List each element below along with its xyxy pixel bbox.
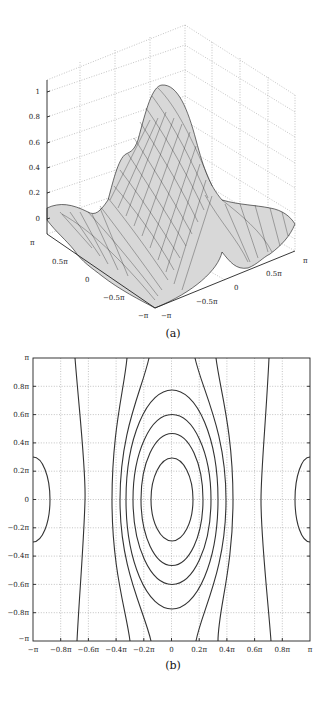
- x-tick: −π: [28, 646, 39, 654]
- y-tick: 0.4π: [13, 439, 29, 447]
- x-tick: −0.8π: [50, 646, 72, 654]
- y-tick: π: [24, 354, 29, 362]
- contour-grid: [33, 358, 310, 641]
- surface-mesh: [47, 85, 295, 308]
- floor-tick: 0: [234, 284, 238, 292]
- z-tick: 0: [36, 215, 40, 223]
- z-tick: 0.8: [29, 113, 40, 121]
- x-axis-tick-labels: −π −0.8π −0.6π −0.4π −0.2π 0 0.2π 0.4π 0…: [28, 646, 313, 654]
- y-tick: −π: [19, 635, 30, 643]
- closed-contours: [126, 390, 218, 609]
- x-tick: 0.4π: [219, 646, 235, 654]
- x-tick: 0.2π: [191, 646, 207, 654]
- y-tick: 0: [25, 496, 29, 504]
- floor-tick: 0: [85, 276, 89, 284]
- y-tick: 0.8π: [13, 383, 29, 391]
- x-tick: π: [308, 646, 313, 654]
- x-tick: −0.6π: [78, 646, 100, 654]
- floor-tick: −π: [138, 312, 149, 320]
- panel-a-caption: (a): [165, 327, 180, 340]
- y-tick: 0.2π: [13, 467, 29, 475]
- open-contours: [75, 358, 271, 641]
- floor-tick: 0.5π: [266, 270, 282, 278]
- z-tick: 1: [36, 88, 40, 96]
- y-tick: −0.8π: [7, 609, 29, 617]
- edge-contours: [33, 457, 310, 542]
- y-tick: −0.4π: [7, 552, 29, 560]
- z-axis-tick-labels: 1 0.8 0.6 0.4 0.2 0: [29, 88, 41, 223]
- y-axis-tick-labels: π 0.8π 0.6π 0.4π 0.2π 0 −0.2π −0.4π −0.6…: [7, 354, 29, 643]
- x-tick: −0.4π: [105, 646, 127, 654]
- panel-b-caption: (b): [165, 659, 181, 672]
- x-tick: 0.8π: [274, 646, 290, 654]
- y-tick: −0.2π: [7, 524, 29, 532]
- z-tick: 0.2: [29, 189, 40, 197]
- surface-plot-panel-a: 1 0.8 0.6 0.4 0.2 0 π 0.5π 0 −0.5π −π −π…: [0, 0, 331, 345]
- floor-tick: π: [303, 257, 308, 265]
- contour-ticks: [33, 386, 310, 641]
- floor-tick: −π: [161, 312, 172, 320]
- y-tick: 0.6π: [13, 411, 29, 419]
- z-tick: 0.4: [29, 164, 41, 172]
- floor-tick: π: [30, 239, 35, 247]
- floor-tick: 0.5π: [52, 258, 68, 266]
- contour-frame: [33, 358, 310, 641]
- z-tick: 0.6: [29, 139, 41, 147]
- x-tick: −0.2π: [133, 646, 155, 654]
- x-tick: 0: [169, 646, 173, 654]
- x-tick: 0.6π: [247, 646, 263, 654]
- y-tick: −0.6π: [7, 581, 29, 589]
- floor-tick: −0.5π: [103, 294, 125, 302]
- floor-tick: −0.5π: [196, 298, 218, 306]
